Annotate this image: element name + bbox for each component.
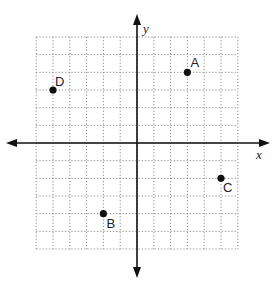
- y-axis: y: [133, 14, 149, 278]
- point-label: C: [223, 180, 232, 195]
- y-axis-top-arrow-icon: [133, 14, 141, 25]
- point-d: D: [49, 74, 64, 94]
- x-axis-label: x: [255, 147, 262, 162]
- point-label: A: [190, 55, 199, 70]
- y-axis-label: y: [141, 21, 149, 36]
- point-label: D: [55, 74, 64, 89]
- x-axis-left-arrow-icon: [6, 139, 17, 147]
- y-axis-bottom-arrow-icon: [133, 267, 141, 278]
- x-axis: x: [6, 139, 270, 162]
- point-a: A: [184, 55, 200, 76]
- x-axis-right-arrow-icon: [259, 139, 270, 147]
- coordinate-plane: x y ABCD: [0, 0, 280, 296]
- point-b: B: [100, 210, 115, 231]
- point-label: B: [106, 216, 115, 231]
- point-c: C: [217, 175, 232, 196]
